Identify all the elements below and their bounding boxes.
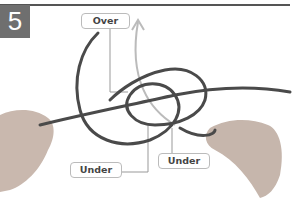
under-label-right: Under [158, 153, 210, 169]
right-hand [206, 120, 282, 198]
rope-illustration [0, 0, 297, 210]
under-label-left: Under [70, 162, 122, 178]
over-label: Over [81, 13, 130, 29]
step-number-badge: 5 [0, 5, 30, 38]
knot-step-illustration: 5 Over Under Under [0, 0, 297, 210]
